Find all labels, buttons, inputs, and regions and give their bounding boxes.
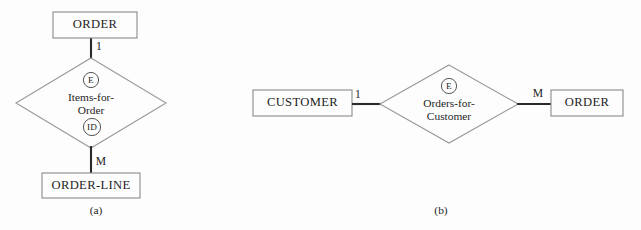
entity-label-order-a: ORDER <box>73 17 118 31</box>
cardinality-label-a-bottom: M <box>96 155 106 168</box>
entity-label-order-line: ORDER-LINE <box>51 178 130 192</box>
caption-a: (a) <box>90 204 103 217</box>
relationship-label-items-for-order-line2: Order <box>78 104 105 116</box>
entity-label-customer: CUSTOMER <box>267 95 338 109</box>
relationship-label-orders-for-customer-line1: Orders-for- <box>423 97 475 109</box>
diagram-a: 1 ORDER E Items-for- Order ID M ORDER-LI… <box>16 12 166 217</box>
identifying-marker-id-label-a: ID <box>87 122 97 132</box>
identifying-marker-e-label-a: E <box>88 75 94 85</box>
relationship-label-orders-for-customer-line2: Customer <box>427 110 472 122</box>
diagram-b: CUSTOMER 1 E Orders-for- Customer M ORDE… <box>253 65 623 217</box>
cardinality-label-b-right: M <box>533 87 543 100</box>
entity-label-order-b: ORDER <box>565 95 610 109</box>
cardinality-label-a-top: 1 <box>96 40 102 53</box>
diagram-canvas: 1 ORDER E Items-for- Order ID M ORDER-LI… <box>0 0 641 230</box>
er-diagram-figure: 1 ORDER E Items-for- Order ID M ORDER-LI… <box>0 0 641 230</box>
cardinality-label-b-left: 1 <box>355 88 361 101</box>
relationship-label-items-for-order-line1: Items-for- <box>68 91 114 103</box>
caption-b: (b) <box>434 204 447 217</box>
identifying-marker-e-label-b: E <box>446 81 452 91</box>
